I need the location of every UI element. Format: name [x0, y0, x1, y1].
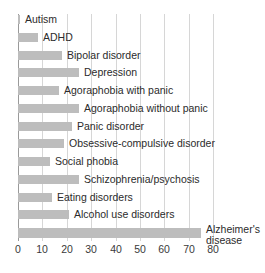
bar-label: Alcohol use disorders [74, 208, 174, 220]
bar [18, 68, 79, 77]
x-tick-label: 40 [110, 243, 122, 255]
bar [18, 15, 20, 24]
x-tick-label: 70 [183, 243, 195, 255]
x-tick-label: 20 [61, 243, 73, 255]
bar [18, 175, 79, 184]
bar-label: ADHD [43, 31, 73, 43]
x-tick-label: 80 [207, 243, 219, 255]
gridline [213, 14, 214, 241]
bar [18, 139, 64, 148]
bar-label: Panic disorder [77, 120, 144, 132]
bar-label: Eating disorders [57, 191, 133, 203]
horizontal-bar-chart: AutismADHDBipolar disorderDepressionAgor… [0, 0, 265, 273]
bar-label: Autism [25, 13, 57, 25]
x-tick-label: 0 [15, 243, 21, 255]
bar-label: Schizophrenia/psychosis [84, 173, 200, 185]
x-tick-label: 50 [134, 243, 146, 255]
bar [18, 228, 201, 238]
bar-label: Agoraphobia without panic [84, 102, 208, 114]
bar-label: Depression [84, 66, 137, 78]
bar [18, 51, 62, 60]
bar-label: Agoraphobia with panic [64, 84, 173, 96]
bar [18, 33, 38, 42]
bar [18, 104, 79, 113]
x-tick-label: 60 [158, 243, 170, 255]
bar [18, 86, 59, 95]
x-tick-label: 30 [85, 243, 97, 255]
bar-label: Obsessive-compulsive disorder [69, 137, 215, 149]
gridline [164, 14, 165, 241]
bar [18, 157, 50, 166]
bar [18, 193, 52, 202]
gridline [189, 14, 190, 241]
bar [18, 210, 69, 219]
x-tick-label: 10 [36, 243, 48, 255]
bar [18, 122, 72, 131]
bar-label: Social phobia [55, 155, 118, 167]
bar-label: Bipolar disorder [67, 49, 141, 61]
